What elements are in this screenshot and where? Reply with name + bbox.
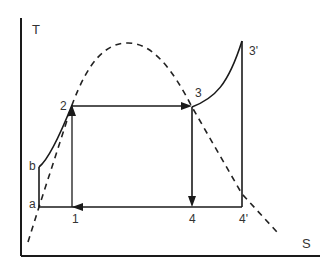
label-point-3prime: 3'	[249, 44, 258, 58]
label-point-4prime: 4'	[239, 212, 248, 226]
ts-diagram: T S 2 3 3' b a 1 4 4'	[0, 0, 331, 264]
t-axis-label: T	[32, 22, 40, 37]
label-point-a: a	[29, 197, 36, 211]
s-axis-label: S	[302, 236, 311, 251]
label-point-3: 3	[195, 86, 202, 100]
label-point-2: 2	[60, 99, 67, 113]
arrow-down-at-4	[188, 196, 196, 207]
label-point-b: b	[29, 159, 36, 173]
arrow-left-at-1	[72, 203, 83, 211]
label-point-4: 4	[189, 212, 196, 226]
label-point-1: 1	[72, 212, 79, 226]
